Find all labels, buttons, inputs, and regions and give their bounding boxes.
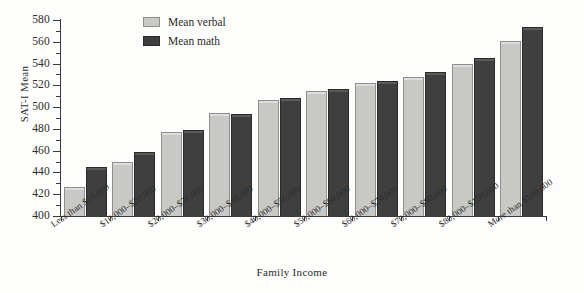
y-axis-tick [53, 64, 61, 65]
y-axis-minor-tick [56, 183, 61, 184]
bar-mean-verbal [500, 41, 521, 216]
y-axis-tick-label: 440 [4, 166, 50, 178]
y-axis-minor-tick [56, 205, 61, 206]
legend-label: Mean math [168, 33, 220, 49]
bar-mean-verbal [452, 64, 473, 216]
plot-area [61, 20, 546, 216]
legend-swatch-icon [143, 17, 160, 27]
y-axis-tick [53, 85, 61, 86]
y-axis-tick-label: 480 [4, 123, 50, 135]
y-axis-minor-tick [56, 53, 61, 54]
y-axis-minor-tick [56, 96, 61, 97]
legend-item: Mean math [143, 33, 226, 49]
y-axis-tick-label: 460 [4, 145, 50, 157]
y-axis-minor-tick [56, 31, 61, 32]
y-axis-tick [53, 194, 61, 195]
y-axis-tick-label: 400 [4, 210, 50, 222]
legend-item: Mean verbal [143, 14, 226, 30]
bar-mean-verbal [355, 83, 376, 216]
y-axis-labels: 400420440460480500520540560580 [0, 0, 50, 293]
y-axis-tick-label: 420 [4, 188, 50, 200]
chart-legend: Mean verbalMean math [143, 14, 226, 52]
y-axis-minor-tick [56, 74, 61, 75]
y-axis-tick-label: 560 [4, 36, 50, 48]
y-axis-tick [53, 42, 61, 43]
y-axis-tick [53, 20, 61, 21]
legend-swatch-icon [143, 36, 160, 46]
y-axis-tick [53, 107, 61, 108]
y-axis-tick [53, 129, 61, 130]
y-axis-minor-tick [56, 140, 61, 141]
y-axis-minor-tick [56, 118, 61, 119]
y-axis-tick-label: 520 [4, 79, 50, 91]
legend-label: Mean verbal [168, 14, 226, 30]
bar-mean-verbal [403, 77, 424, 216]
x-axis-tick [546, 217, 547, 221]
chart-figure: SAT-I Mean 40042044046048050052054056058… [0, 0, 584, 293]
y-axis-tick [53, 172, 61, 173]
y-axis-tick-label: 580 [4, 14, 50, 26]
y-axis-tick [53, 151, 61, 152]
y-axis-tick-label: 540 [4, 58, 50, 70]
y-axis-tick-label: 500 [4, 101, 50, 113]
x-axis-title: Family Income [0, 266, 584, 278]
y-axis-minor-tick [56, 162, 61, 163]
